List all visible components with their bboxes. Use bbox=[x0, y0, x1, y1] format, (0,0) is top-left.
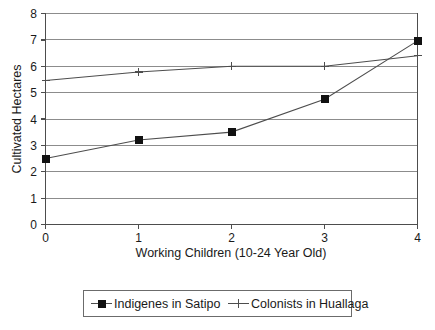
x-tick-label-0: 0 bbox=[42, 231, 49, 245]
x-tick-labels: 0 1 2 3 4 bbox=[42, 231, 421, 245]
y-tick-label-2: 2 bbox=[30, 165, 37, 179]
y-tick-label-6: 6 bbox=[30, 60, 37, 74]
chart-legend: Indigenes in Satipo Colonists in Huallag… bbox=[84, 291, 369, 317]
x-axis-title: Working Children (10-24 Year Old) bbox=[136, 246, 327, 260]
y-tick-marks bbox=[41, 14, 45, 225]
y-tick-label-5: 5 bbox=[30, 86, 37, 100]
x-tick-label-3: 3 bbox=[321, 231, 328, 245]
y-tick-label-4: 4 bbox=[30, 113, 37, 127]
y-tick-label-8: 8 bbox=[30, 7, 37, 21]
x-tick-marks bbox=[46, 225, 418, 230]
chart-svg: 8 7 6 5 4 3 2 1 0 0 1 2 3 4 Working Chil… bbox=[0, 0, 435, 330]
x-tick-label-4: 4 bbox=[414, 231, 421, 245]
square-marker-x4 bbox=[414, 37, 422, 45]
y-tick-label-1: 1 bbox=[30, 192, 37, 206]
legend-label-colonists-in-huallaga: Colonists in Huallaga bbox=[251, 297, 368, 311]
x-tick-label-1: 1 bbox=[135, 231, 142, 245]
x-tick-label-2: 2 bbox=[228, 231, 235, 245]
y-axis-title: Cultivated Hectares bbox=[10, 64, 24, 173]
y-tick-label-3: 3 bbox=[30, 139, 37, 153]
y-tick-label-7: 7 bbox=[30, 33, 37, 47]
square-marker-x3 bbox=[321, 95, 329, 103]
chart-figure: 8 7 6 5 4 3 2 1 0 0 1 2 3 4 Working Chil… bbox=[0, 0, 435, 330]
square-marker-x1 bbox=[135, 136, 143, 144]
y-tick-label-0: 0 bbox=[30, 218, 37, 232]
square-marker-x2 bbox=[228, 128, 236, 136]
y-tick-labels: 8 7 6 5 4 3 2 1 0 bbox=[30, 7, 37, 232]
square-marker-x0 bbox=[42, 155, 50, 163]
legend-label-indigenes-in-satipo: Indigenes in Satipo bbox=[114, 297, 220, 311]
legend-square-marker-icon bbox=[98, 300, 106, 308]
